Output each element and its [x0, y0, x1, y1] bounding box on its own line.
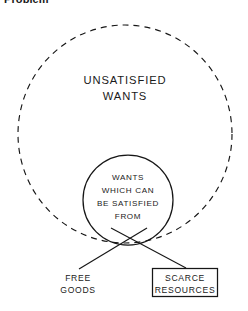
free-goods-leader-line — [79, 228, 147, 269]
scarce-resources-label-line-1: SCARCE — [165, 273, 205, 283]
unsatisfied-wants-label-line-2: WANTS — [103, 90, 147, 102]
satisfiable-wants-label-line-2: WHICH CAN — [102, 186, 155, 195]
satisfiable-wants-label-line-1: WANTS — [112, 173, 144, 182]
free-goods-label-line-2: GOODS — [60, 285, 96, 295]
scarce-resources-label-line-2: RESOURCES — [155, 285, 216, 295]
free-goods-label-line-1: FREE — [65, 273, 91, 283]
diagram-canvas: UNSATISFIED WANTS WANTS WHICH CAN BE SAT… — [0, 0, 248, 311]
unsatisfied-wants-label-line-1: UNSATISFIED — [83, 74, 166, 86]
satisfiable-wants-label-line-4: FROM — [115, 212, 141, 221]
scarcity-diagram: Problem UNSATISFIED WANTS WANTS WHICH CA… — [0, 0, 248, 311]
unsatisfied-wants-circle — [18, 25, 232, 243]
satisfiable-wants-label-line-3: BE SATISFIED — [97, 199, 159, 208]
scarce-resources-leader-line — [111, 228, 186, 268]
